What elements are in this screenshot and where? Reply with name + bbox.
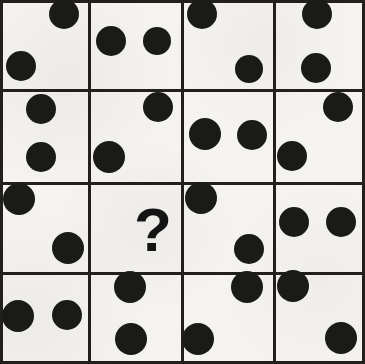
- pattern-dot: [6, 51, 36, 81]
- pattern-dot: [26, 142, 56, 172]
- pattern-dot: [3, 183, 35, 215]
- pattern-dot: [52, 300, 82, 330]
- pattern-dot: [93, 141, 125, 173]
- pattern-dot: [185, 182, 217, 214]
- pattern-dot: [26, 94, 56, 124]
- grid-line-horizontal: [0, 182, 365, 185]
- question-mark-placeholder[interactable]: ?: [134, 199, 171, 261]
- pattern-dot: [234, 234, 264, 264]
- pattern-dot: [235, 55, 263, 83]
- pattern-dot: [301, 53, 331, 83]
- pattern-dot: [96, 26, 126, 56]
- pattern-dot: [187, 0, 217, 29]
- pattern-dot: [52, 232, 84, 264]
- pattern-dot: [326, 207, 356, 237]
- pattern-dot: [182, 323, 214, 355]
- pattern-dot: [143, 27, 171, 55]
- pattern-dot: [279, 207, 309, 237]
- pattern-dot: [237, 120, 267, 150]
- pattern-dot: [49, 0, 79, 29]
- pattern-dot: [323, 92, 353, 122]
- pattern-dot: [189, 118, 221, 150]
- pattern-dot: [302, 0, 332, 29]
- pattern-dot: [277, 141, 307, 171]
- pattern-dot: [143, 92, 173, 122]
- pattern-dot: [231, 271, 263, 303]
- pattern-dot: [325, 322, 357, 354]
- pattern-dot: [2, 300, 34, 332]
- pattern-dot: [114, 271, 146, 303]
- pattern-dot: [277, 270, 309, 302]
- dot-matrix-puzzle: ?: [0, 0, 365, 364]
- grid-line-horizontal: [0, 89, 365, 92]
- grid-line-horizontal: [0, 272, 365, 275]
- pattern-dot: [115, 323, 147, 355]
